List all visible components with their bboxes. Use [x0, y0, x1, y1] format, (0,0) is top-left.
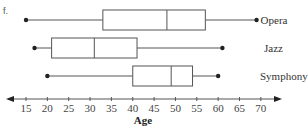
min-dot	[32, 46, 36, 50]
box-plot-opera: Opera	[24, 10, 288, 30]
tick-label: 30	[85, 102, 97, 114]
axis-arrow-left-icon	[6, 96, 14, 102]
box-plot-symphony: Symphony	[45, 66, 308, 86]
tick-label: 70	[255, 102, 267, 114]
tick-label: 40	[127, 102, 139, 114]
tick-label: 15	[21, 102, 33, 114]
row-label: Opera	[261, 14, 288, 26]
max-dot	[254, 18, 258, 22]
max-dot	[220, 46, 224, 50]
tick-label: 45	[149, 102, 161, 114]
tick-label: 25	[63, 102, 75, 114]
tick-label: 65	[234, 102, 246, 114]
min-dot	[45, 74, 49, 78]
tick-label: 50	[170, 102, 182, 114]
problem-label: f.	[3, 6, 8, 16]
iqr-box	[103, 10, 205, 30]
tick-label: 35	[106, 102, 118, 114]
box-plot-chart: f. OperaJazzSymphony 1520253035404550556…	[0, 0, 308, 129]
x-axis: 152025303540455055606570	[6, 96, 282, 114]
row-label: Jazz	[264, 42, 283, 54]
row-label: Symphony	[260, 70, 308, 82]
tick-label: 20	[42, 102, 54, 114]
min-dot	[24, 18, 28, 22]
tick-label: 55	[191, 102, 203, 114]
axis-arrow-right-icon	[274, 96, 282, 102]
tick-label: 60	[213, 102, 225, 114]
x-axis-title: Age	[134, 114, 152, 126]
box-plot-rows: OperaJazzSymphony	[24, 10, 308, 86]
box-plot-jazz: Jazz	[32, 38, 283, 58]
max-dot	[216, 74, 220, 78]
iqr-box	[133, 66, 193, 86]
